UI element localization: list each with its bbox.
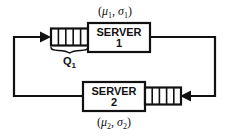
server-1-mu: μ [101,4,108,18]
queue-1-label: Q1 [63,55,77,70]
route-server2-to-queue1-arrowhead-icon [40,32,51,43]
queueing-network-diagram: Q1 SERVER 1 (μ1, σ1) SERVER 2 [0,0,229,137]
queue-1-label-index: 1 [72,61,77,70]
queue-1-body [51,29,88,46]
server-2-parameters-label: (μ2, σ2) [97,115,131,131]
diagram-canvas: Q1 SERVER 1 (μ1, σ1) SERVER 2 [0,0,229,137]
server-2: SERVER 2 [83,82,145,111]
server-1-parameters-label: (μ1, σ1) [98,4,132,20]
paren-close: ) [128,4,132,18]
server-2-mu: μ [100,115,107,129]
queue-1-brace [51,48,88,54]
queue-1: Q1 [51,29,88,71]
queue-2 [145,88,181,105]
server-2-label-line2: 2 [111,96,117,108]
server-1: SERVER 1 [88,23,150,52]
paren-close: ) [127,115,131,129]
server-1-label-line2: 1 [116,37,122,49]
queue-2-body [145,88,181,105]
